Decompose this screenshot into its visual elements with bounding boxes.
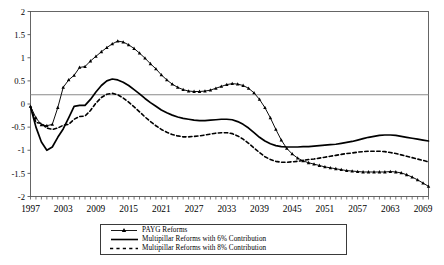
x-tick-label: 2027: [185, 204, 204, 212]
chart-plot-area: 21.510.50-0.5-1-1.5-21997200320092015202…: [0, 0, 444, 212]
y-tick-label: -0.5: [11, 122, 25, 132]
legend-symbol-dashed-line: [109, 244, 139, 253]
series-marker: [274, 128, 278, 131]
y-tick-label: 1.5: [14, 30, 25, 40]
legend-label-payg: PAYG Reforms: [142, 226, 187, 235]
series-line: [31, 41, 429, 186]
x-tick-label: 2033: [217, 204, 236, 212]
y-tick-label: 0.5: [14, 76, 25, 86]
x-tick-label: 2045: [283, 204, 302, 212]
x-tick-label: 2057: [348, 204, 367, 212]
line-chart-svg: 21.510.50-0.5-1-1.5-21997200320092015202…: [0, 0, 444, 212]
y-tick-label: 1: [21, 53, 25, 63]
series-marker: [105, 46, 109, 49]
x-tick-label: 2021: [152, 204, 171, 212]
x-tick-label: 2039: [250, 204, 269, 212]
legend-label-multipillar-6: Multipillar Reforms with 6% Contribution: [142, 235, 266, 244]
plot-frame: [31, 12, 429, 197]
x-tick-label: 1997: [21, 204, 40, 212]
series-marker: [56, 106, 60, 109]
y-tick-label: 2: [21, 7, 25, 17]
y-tick-label: 0: [21, 99, 25, 109]
x-tick-label: 2069: [414, 204, 433, 212]
series-line: [31, 79, 429, 150]
x-tick-label: 2003: [54, 204, 73, 212]
legend-item-payg: PAYG Reforms: [109, 226, 346, 235]
legend-label-multipillar-8: Multipillar Reforms with 8% Contribution: [142, 244, 266, 253]
series-2: [31, 93, 429, 162]
series-0: [29, 39, 431, 188]
y-axis: 21.510.50-0.5-1-1.5-2: [11, 7, 30, 202]
legend-symbol-line-with-triangle-markers: [109, 226, 139, 235]
x-axis: 1997200320092015202120272033203920452051…: [21, 197, 433, 213]
y-tick-label: -1: [18, 145, 25, 155]
legend-symbol-solid-line: [109, 235, 139, 244]
legend-item-multipillar-8: Multipillar Reforms with 8% Contribution: [109, 244, 346, 253]
series-marker: [51, 122, 55, 125]
x-tick-label: 2051: [316, 204, 335, 212]
y-tick-label: -2: [18, 192, 25, 202]
x-tick-label: 2063: [381, 204, 400, 212]
chart-legend: PAYG Reforms Multipillar Reforms with 6%…: [100, 224, 347, 255]
series-line: [31, 93, 429, 162]
chart-figure: 21.510.50-0.5-1-1.5-21997200320092015202…: [0, 0, 444, 265]
legend-item-multipillar-6: Multipillar Reforms with 6% Contribution: [109, 235, 346, 244]
series-1: [31, 79, 429, 150]
x-tick-label: 2009: [87, 204, 106, 212]
y-tick-label: -1.5: [11, 169, 25, 179]
x-tick-label: 2015: [119, 204, 138, 212]
